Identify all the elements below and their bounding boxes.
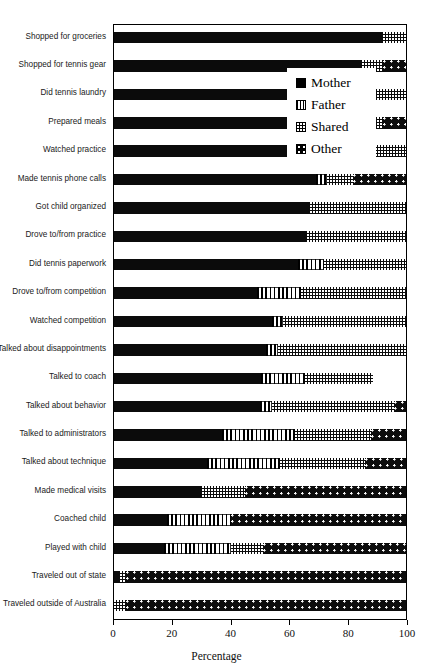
legend-item-other: Other — [287, 138, 376, 160]
y-axis-label: Got child organized — [35, 202, 106, 211]
y-axis-label: Talked to administrators — [20, 429, 106, 438]
stacked-bar — [114, 543, 406, 555]
bar-segment-father — [260, 401, 272, 413]
x-tick-label: 20 — [166, 627, 177, 639]
bar-row — [114, 231, 406, 243]
stacked-bar — [114, 174, 406, 186]
y-axis-label: Prepared meals — [48, 117, 106, 126]
bar-segment-shared — [202, 486, 246, 498]
bar-segment-shared — [272, 401, 395, 413]
bar-segment-father — [266, 344, 278, 356]
x-tick-label: 40 — [225, 627, 236, 639]
bar-row — [114, 32, 406, 44]
y-axis-label: Watched practice — [43, 145, 106, 154]
bar-segment-other — [383, 60, 406, 72]
bar-row — [114, 259, 406, 271]
bar-segment-other — [383, 117, 406, 129]
x-tick-label: 0 — [110, 627, 116, 639]
x-tick-label: 80 — [343, 627, 354, 639]
x-tick-label: 60 — [284, 627, 295, 639]
bar-segment-mother — [114, 458, 207, 470]
x-axis-tick-labels: 020406080100 — [0, 627, 433, 643]
stacked-bar — [114, 429, 406, 441]
bar-segment-mother — [114, 316, 272, 328]
bar-segment-shared — [283, 316, 406, 328]
x-tick — [231, 620, 232, 625]
stacked-bar-chart: Shopped for groceriesShopped for tennis … — [0, 0, 433, 672]
bar-row — [114, 344, 406, 356]
bar-row — [114, 543, 406, 555]
y-axis-label: Made medical visits — [35, 486, 106, 495]
legend-label-father: Father — [311, 98, 346, 112]
stacked-bar — [114, 287, 406, 299]
bar-segment-shared — [280, 458, 365, 470]
y-axis-label: Played with child — [45, 543, 106, 552]
stacked-bar — [114, 373, 406, 385]
y-axis-label: Coached child — [54, 514, 106, 523]
stacked-bar — [114, 514, 406, 526]
y-axis-label: Did tennis laundry — [40, 88, 106, 97]
bar-segment-shared — [383, 32, 406, 44]
y-axis-label: Talked to coach — [49, 372, 106, 381]
legend-item-shared: Shared — [287, 116, 376, 138]
bar-row — [114, 458, 406, 470]
bar-segment-other — [394, 401, 406, 413]
legend-swatch-mother-icon — [296, 78, 306, 88]
legend-item-father: Father — [287, 94, 376, 116]
bar-segment-mother — [114, 287, 257, 299]
bar-segment-shared — [310, 202, 406, 214]
stacked-bar — [114, 571, 406, 583]
bar-segment-other — [353, 174, 406, 186]
bar-segment-shared — [327, 174, 353, 186]
bar-segment-mother — [114, 543, 164, 555]
y-axis-category-labels: Shopped for groceriesShopped for tennis … — [0, 24, 110, 620]
bar-segment-father — [207, 458, 280, 470]
bar-segment-father — [272, 316, 284, 328]
bar-row — [114, 514, 406, 526]
bar-row — [114, 202, 406, 214]
bar-segment-mother — [114, 344, 266, 356]
y-axis-label: Traveled out of state — [32, 571, 106, 580]
bar-segment-shared — [301, 287, 406, 299]
bar-segment-father — [298, 259, 324, 271]
bar-segment-mother — [114, 174, 316, 186]
bar-segment-shared — [114, 600, 126, 612]
bar-row — [114, 429, 406, 441]
x-tick — [348, 620, 349, 625]
bar-segment-other — [263, 543, 406, 555]
stacked-bar — [114, 600, 406, 612]
bar-segment-mother — [114, 259, 298, 271]
bar-row — [114, 373, 406, 385]
y-axis-label: Did tennis paperwork — [29, 259, 106, 268]
bar-segment-father — [257, 287, 301, 299]
bar-segment-father — [316, 174, 328, 186]
bar-segment-mother — [114, 231, 307, 243]
chart-legend: Mother Father Shared Other — [287, 68, 376, 163]
bar-segment-shared — [278, 344, 406, 356]
y-axis-label: Traveled outside of Australia — [3, 599, 106, 608]
y-axis-label: Shopped for groceries — [25, 32, 106, 41]
stacked-bar — [114, 458, 406, 470]
bar-segment-father — [222, 429, 295, 441]
y-axis-label: Talked about behavior — [26, 401, 106, 410]
legend-swatch-other-icon — [296, 144, 306, 154]
bar-segment-shared — [305, 373, 373, 385]
y-axis-label: Shopped for tennis gear — [19, 60, 106, 69]
legend-item-mother: Mother — [287, 72, 376, 94]
legend-label-mother: Mother — [311, 76, 351, 90]
stacked-bar — [114, 231, 406, 243]
x-tick — [113, 620, 114, 625]
bar-row — [114, 600, 406, 612]
bar-row — [114, 174, 406, 186]
bar-segment-other — [365, 458, 406, 470]
y-axis-label: Talked about disappointments — [0, 344, 106, 353]
bar-row — [114, 401, 406, 413]
x-axis-title: Percentage — [0, 650, 433, 662]
stacked-bar — [114, 202, 406, 214]
bar-segment-mother — [114, 202, 310, 214]
legend-swatch-father-icon — [296, 100, 306, 110]
bar-segment-mother — [114, 486, 202, 498]
plot-area: Mother Father Shared Other — [113, 24, 407, 620]
legend-label-shared: Shared — [311, 120, 349, 134]
stacked-bar — [114, 486, 406, 498]
